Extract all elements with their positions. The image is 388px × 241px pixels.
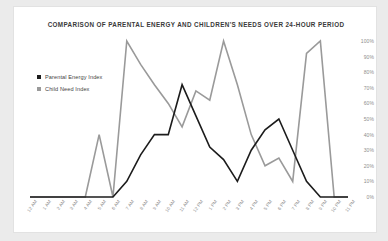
y-axis-tick-label: 20%: [364, 163, 374, 169]
x-axis-tick-label: 5 PM: [263, 199, 273, 211]
x-axis-tick-label: 8 AM: [138, 199, 148, 211]
chart-card: COMPARISON OF PARENTAL ENERGY AND CHILDR…: [13, 6, 377, 233]
x-axis-tick-label: 5 AM: [97, 199, 107, 211]
x-axis-tick-label: 1 PM: [207, 199, 217, 211]
x-axis-tick-label: 12 PM: [192, 199, 204, 213]
y-axis-tick-label: 80%: [364, 69, 374, 75]
x-axis-tick-label: 10 AM: [164, 199, 176, 213]
y-axis-tick-label: 100%: [361, 38, 374, 44]
x-axis-tick-label: 12 AM: [26, 199, 38, 213]
x-axis-tick-label: 7 PM: [290, 199, 300, 211]
y-axis: 100%90%80%70%60%50%40%30%20%10%0%: [350, 41, 378, 197]
x-axis-tick-label: 7 AM: [125, 199, 135, 211]
plot-area: [30, 41, 348, 197]
x-axis-tick-label: 11 PM: [344, 199, 356, 213]
x-axis-tick-label: 6 PM: [276, 199, 286, 211]
x-axis-tick-label: 2 PM: [221, 199, 231, 211]
y-axis-tick-label: 30%: [364, 147, 374, 153]
chart-lines: [30, 41, 348, 197]
x-axis-tick-label: 3 PM: [235, 199, 245, 211]
y-axis-tick-label: 0%: [367, 194, 374, 200]
page-background: COMPARISON OF PARENTAL ENERGY AND CHILDR…: [0, 0, 388, 241]
y-axis-tick-label: 50%: [364, 116, 374, 122]
series-line: [30, 85, 348, 197]
chart-title: COMPARISON OF PARENTAL ENERGY AND CHILDR…: [14, 21, 378, 28]
series-line: [30, 41, 348, 197]
y-axis-tick-label: 40%: [364, 132, 374, 138]
x-axis: 12 AM1 AM2 AM3 AM4 AM5 AM6 AM7 AM8 AM9 A…: [30, 197, 348, 241]
x-axis-tick-label: 9 AM: [152, 199, 162, 211]
x-axis-tick-label: 2 AM: [55, 199, 65, 211]
x-axis-tick-label: 10 PM: [330, 199, 342, 213]
x-axis-tick-label: 4 PM: [249, 199, 259, 211]
y-axis-tick-label: 60%: [364, 100, 374, 106]
x-axis-tick-label: 6 AM: [111, 199, 121, 211]
y-axis-tick-label: 10%: [364, 178, 374, 184]
y-axis-tick-label: 90%: [364, 54, 374, 60]
y-axis-tick-label: 70%: [364, 85, 374, 91]
x-axis-tick-label: 9 PM: [318, 199, 328, 211]
x-axis-tick-label: 3 AM: [69, 199, 79, 211]
x-axis-tick-label: 4 AM: [83, 199, 93, 211]
x-axis-tick-label: 8 PM: [304, 199, 314, 211]
x-axis-tick-label: 11 AM: [179, 199, 191, 213]
x-axis-tick-label: 1 AM: [42, 199, 52, 211]
